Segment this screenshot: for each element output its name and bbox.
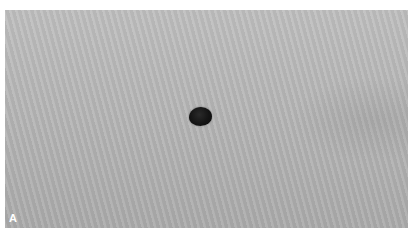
clinical-photo: A [5, 10, 408, 228]
panel-label: A [9, 213, 17, 224]
pigmented-lesion [189, 107, 212, 126]
